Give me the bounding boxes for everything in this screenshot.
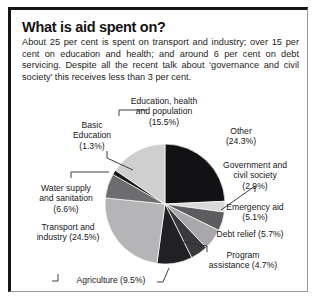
slice-label-transport-industry: Transport and industry (24.5%) (29, 222, 107, 243)
slice-label-program-assistance: Program assistance (4.7%) (187, 250, 299, 271)
slice-label-agriculture: Agriculture (9.5%) (63, 275, 159, 285)
slice-label-government-civil-society: Government and civil society (2.9%) (207, 160, 303, 191)
slice-label-other: Other (24.3%) (207, 126, 275, 147)
leader-line (71, 172, 109, 178)
figure-panel: What is aid spent on? About 25 per cent … (8, 7, 308, 292)
slice-label-basic-education: Basic Education (1.3%) (59, 120, 125, 151)
slice-label-debt-relief: Debt relief (5.7%) (201, 229, 299, 239)
leader-line (52, 274, 58, 281)
slice-label-water-supply-sanitation: Water supply and sanitation (6.6%) (29, 183, 103, 214)
slice-label-education-health-population: Education, health and population (15.5%) (112, 96, 216, 127)
pie-slice (105, 198, 165, 264)
slice-label-emergency-aid: Emergency aid (5.1%) (211, 202, 299, 223)
